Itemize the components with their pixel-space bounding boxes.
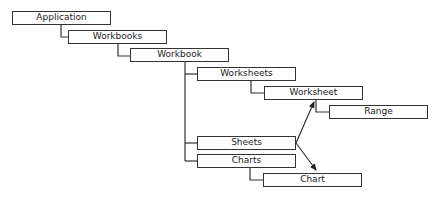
edge-worksheets-worksheet (251, 81, 264, 93)
edge-application-workbooks (61, 25, 68, 37)
edge-charts-chart (250, 168, 263, 180)
node-label: Worksheets (220, 68, 272, 78)
node-label: Workbooks (93, 31, 142, 41)
node-application: Application (12, 11, 111, 25)
node-label: Chart (300, 174, 325, 184)
node-label: Charts (232, 155, 261, 165)
node-label: Range (364, 106, 393, 116)
node-label: Sheets (231, 137, 262, 147)
node-label: Workbook (157, 49, 202, 59)
node-workbooks: Workbooks (68, 30, 167, 44)
node-range: Range (329, 105, 428, 119)
node-sheets: Sheets (197, 136, 296, 150)
arrow-sheets-chart (296, 143, 316, 170)
node-label: Worksheet (290, 87, 338, 97)
node-worksheets: Worksheets (197, 67, 296, 81)
node-chart: Chart (263, 173, 362, 187)
arrow-sheets-worksheet (296, 102, 314, 143)
node-workbook: Workbook (130, 48, 229, 62)
node-worksheet: Worksheet (264, 86, 363, 100)
connector-lines (0, 0, 445, 199)
edge-worksheet-range (316, 100, 329, 112)
edge-workbooks-workbook (118, 44, 130, 56)
node-charts: Charts (197, 154, 296, 168)
node-label: Application (36, 12, 86, 22)
